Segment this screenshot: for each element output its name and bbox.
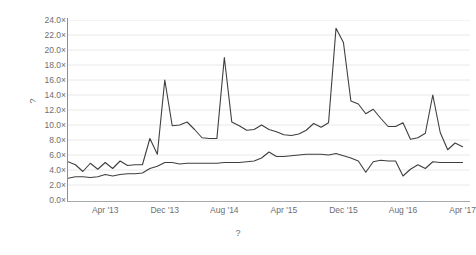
y-axis-tick-label: 4.0× <box>30 166 66 175</box>
series-lines <box>68 28 463 178</box>
x-axis-tick-labels: Apr '13Dec '13Aug '14Apr '15Dec '15Aug '… <box>0 205 476 221</box>
y-axis-tick-label: 22.0× <box>30 31 66 40</box>
x-axis-tick-label: Aug '14 <box>210 205 239 215</box>
y-axis-tick-label: 8.0× <box>30 136 66 145</box>
x-axis-line <box>67 201 470 202</box>
y-axis-tick-label: 2.0× <box>30 181 66 190</box>
y-axis-tick-label: 6.0× <box>30 151 66 160</box>
y-axis-tick-label: 10.0× <box>30 121 66 130</box>
y-axis-tick-label: 0.0× <box>30 196 66 205</box>
x-axis-tick-label: Apr '17 <box>449 205 476 215</box>
gridlines <box>68 20 470 185</box>
y-axis-tick-label: 12.0× <box>30 106 66 115</box>
y-axis-tick-label: 24.0× <box>30 16 66 25</box>
x-axis-tick-label: Apr '13 <box>92 205 119 215</box>
x-axis-tick-label: Apr '15 <box>271 205 298 215</box>
y-axis-tick-label: 16.0× <box>30 76 66 85</box>
y-axis-tick-label: 18.0× <box>30 61 66 70</box>
x-axis-tick-label: Dec '15 <box>329 205 358 215</box>
x-axis-tick-label: Dec '13 <box>150 205 179 215</box>
y-axis-tick-labels: 0.0×2.0×4.0×6.0×8.0×10.0×12.0×14.0×16.0×… <box>30 14 66 206</box>
y-axis-tick-label: 14.0× <box>30 91 66 100</box>
plot-svg <box>68 20 470 200</box>
line-chart: ? ? 0.0×2.0×4.0×6.0×8.0×10.0×12.0×14.0×1… <box>0 0 476 255</box>
plot-area <box>68 20 470 200</box>
x-axis-tick-label: Aug '16 <box>389 205 418 215</box>
x-axis-title: ? <box>0 228 476 238</box>
y-axis-tick-label: 20.0× <box>30 46 66 55</box>
